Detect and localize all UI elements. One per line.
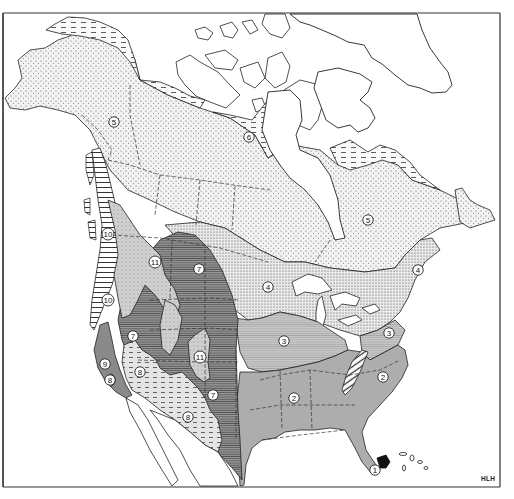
zone-label-7: 7 <box>128 331 138 341</box>
bahamas-islands <box>399 453 428 472</box>
zone-number: 1 <box>373 466 378 475</box>
zone-number: 5 <box>366 216 371 225</box>
zone-number: 8 <box>138 368 143 377</box>
zone-label-4: 4 <box>413 265 423 275</box>
zone-number: 7 <box>197 265 202 274</box>
zone-number: 11 <box>196 353 205 362</box>
zone-number: 2 <box>292 394 297 403</box>
zone-number: 4 <box>266 283 271 292</box>
zone-number: 11 <box>151 258 160 267</box>
zone-label-8: 8 <box>105 375 115 385</box>
zone-number: 3 <box>282 337 287 346</box>
zone-label-8: 8 <box>183 412 193 422</box>
zone-number: 8 <box>108 376 113 385</box>
zone-number: 2 <box>381 373 386 382</box>
zone-label-5: 5 <box>109 117 119 127</box>
zone-label-9: 9 <box>100 359 110 369</box>
zone-label-10: 10 <box>102 294 114 306</box>
zone-number: 7 <box>211 391 216 400</box>
zone-number: 10 <box>104 230 113 239</box>
north-america-zone-map: 1223344556777888910101111 <box>0 0 514 499</box>
zone-label-6: 6 <box>244 132 254 142</box>
zone-label-3: 3 <box>279 336 289 346</box>
zone-label-10: 10 <box>102 228 114 240</box>
zone-number: 5 <box>112 118 117 127</box>
zone-number: 10 <box>104 296 113 305</box>
zone-label-2: 2 <box>378 372 388 382</box>
zone-label-3: 3 <box>384 328 394 338</box>
zone-number: 8 <box>186 413 191 422</box>
zone-number: 4 <box>416 266 421 275</box>
zone-number: 6 <box>247 133 252 142</box>
zone-label-7: 7 <box>194 264 204 274</box>
zone-label-1: 1 <box>370 465 380 475</box>
zone-number: 7 <box>131 332 136 341</box>
baffin-island <box>314 68 375 132</box>
newfoundland <box>455 188 495 228</box>
zone-label-5: 5 <box>363 215 373 225</box>
zone-number: 9 <box>103 360 108 369</box>
zone-label-11: 11 <box>149 256 161 268</box>
zone-label-7: 7 <box>208 390 218 400</box>
zone-number: 3 <box>387 329 392 338</box>
zone-label-2: 2 <box>289 393 299 403</box>
zone-label-11: 11 <box>194 351 206 363</box>
zone-label-4: 4 <box>263 282 273 292</box>
zone-label-8: 8 <box>135 367 145 377</box>
map-credit: HLH <box>481 475 495 482</box>
